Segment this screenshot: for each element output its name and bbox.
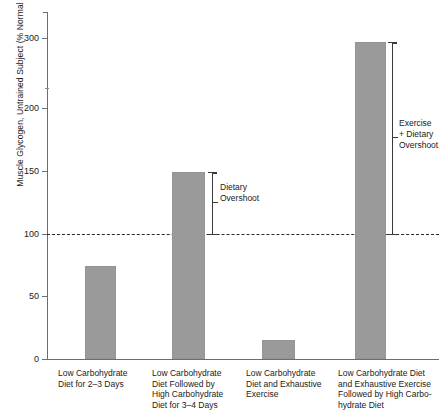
x-axis-line (47, 359, 439, 360)
bar-low-carb-exercise-then-high-carb (355, 42, 386, 359)
bar-low-carb-plus-exercise (262, 340, 295, 359)
y-tick-label-200: 200 (9, 104, 39, 113)
y-tick-0 (42, 359, 48, 360)
y-tick-minor (45, 88, 49, 89)
x-category-label-4: Low Carbohydrate Diet and Exhaustive Exe… (338, 368, 442, 410)
y-axis-tick-group: 300 200 150 100 50 0 (6, 0, 39, 415)
brace-bottom-nub (388, 234, 393, 235)
annotation-dietary-overshoot: Dietary Overshoot (220, 182, 259, 204)
y-tick-label-50: 50 (9, 292, 39, 301)
x-category-label-1: Low Carbohydrate Diet for 2–3 Days (58, 368, 150, 389)
y-tick-label-100: 100 (9, 230, 39, 239)
brace-top-nub (208, 172, 213, 173)
y-axis-line (47, 12, 48, 360)
x-category-label-3: Low Carbohydrate Diet and Exhaustive Exe… (246, 368, 336, 400)
y-tick-label-0: 0 (9, 355, 39, 364)
brace-mid-nub (213, 202, 218, 203)
y-tick-300 (42, 38, 48, 39)
y-tick-200 (42, 108, 48, 109)
y-tick-150 (42, 171, 48, 172)
brace-dietary-overshoot (212, 173, 213, 234)
y-tick-label-300: 300 (9, 34, 39, 43)
chart-root: Muscle Glycogen, Untrained Subject (% No… (0, 0, 443, 415)
annotation-exercise-dietary-overshoot: Exercise + Dietary Overshoot (399, 118, 438, 151)
bar-low-carb-diet (85, 266, 116, 359)
y-tick-50 (42, 296, 48, 297)
brace-top-nub (388, 42, 393, 43)
brace-bottom-nub (208, 234, 213, 235)
brace-exercise-dietary-overshoot (392, 43, 393, 234)
bar-low-carb-then-high-carb (172, 172, 205, 359)
brace-mid-nub (393, 137, 398, 138)
x-category-label-2: Low Carbohydrate Diet Followed by High C… (152, 368, 244, 410)
y-tick-label-150: 150 (9, 167, 39, 176)
